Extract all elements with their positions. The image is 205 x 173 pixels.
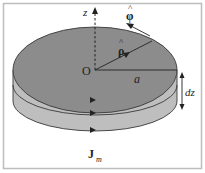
phi-hat-arrowhead	[126, 23, 134, 29]
origin-label: O	[82, 64, 91, 78]
dz-arrowhead-down	[180, 104, 185, 110]
current-label: J	[88, 147, 94, 161]
dz-label: dz	[185, 86, 196, 98]
z-label: z	[82, 6, 88, 18]
cylinder-diagram: z a ρ ^ φ ^ O dz J m	[0, 0, 205, 173]
radius-label: a	[134, 72, 140, 86]
current-subscript: m	[96, 155, 102, 164]
dz-arrowhead-up	[180, 72, 185, 78]
z-axis-arrowhead	[92, 7, 98, 14]
